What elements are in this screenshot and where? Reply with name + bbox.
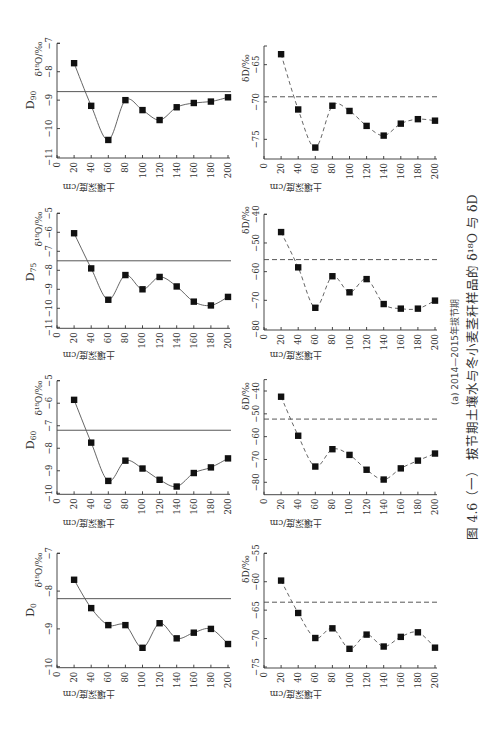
data-point-square bbox=[88, 605, 94, 611]
data-point-square bbox=[346, 289, 352, 295]
value-tick-label: −70 bbox=[251, 450, 261, 468]
chart-d90-dD: −75−70−65020406080100120140160180200δD/‰… bbox=[241, 46, 440, 193]
depth-tick-label: 140 bbox=[379, 334, 389, 350]
figure-canvas: −11−10−9−8−7020406080100120140160180200δ… bbox=[0, 0, 498, 732]
treatment-subscript: 0 bbox=[28, 603, 37, 608]
soil-water-curve bbox=[74, 580, 228, 648]
figure: −11−10−9−8−7020406080100120140160180200δ… bbox=[0, 0, 498, 732]
depth-tick-label: 140 bbox=[172, 672, 182, 688]
depth-tick-label: 40 bbox=[86, 332, 96, 343]
depth-tick-label: 20 bbox=[276, 672, 286, 683]
depth-tick-label: 20 bbox=[69, 162, 79, 173]
depth-tick-label: 20 bbox=[276, 499, 286, 510]
treatment-subscript: 75 bbox=[28, 263, 37, 273]
depth-tick-label: 200 bbox=[430, 334, 440, 350]
value-tick-label: −5 bbox=[44, 207, 54, 220]
depth-tick-label: 100 bbox=[345, 163, 355, 179]
chart-d60-dD: −80−70−60−50−400204060801001201401601802… bbox=[241, 380, 440, 529]
value-tick-label: −70 bbox=[251, 93, 261, 111]
value-tick-label: −40 bbox=[251, 382, 261, 400]
value-tick-label: −9 bbox=[44, 623, 54, 636]
treatment-label: D90 bbox=[24, 91, 38, 110]
depth-tick-label: 100 bbox=[138, 498, 148, 514]
depth-axis-title: 土壤深度/cm bbox=[269, 350, 322, 361]
depth-tick-label: 40 bbox=[293, 163, 303, 174]
data-point-square bbox=[432, 450, 438, 456]
depth-tick-label: 180 bbox=[413, 334, 423, 350]
data-point-square bbox=[225, 294, 231, 300]
data-point-square bbox=[191, 298, 197, 304]
data-point-square bbox=[295, 610, 301, 616]
depth-tick-label: 120 bbox=[362, 163, 372, 179]
depth-tick-label: 120 bbox=[362, 499, 372, 515]
depth-tick-label: 160 bbox=[189, 672, 199, 688]
data-point-square bbox=[191, 470, 197, 476]
value-tick-label: −7 bbox=[44, 419, 54, 432]
value-axis-title: δ¹⁸O/‰ bbox=[34, 552, 44, 587]
depth-tick-label: 160 bbox=[189, 332, 199, 348]
depth-tick-label: 20 bbox=[69, 672, 79, 683]
data-point-square bbox=[363, 276, 369, 282]
data-point-square bbox=[312, 144, 318, 150]
data-point-square bbox=[415, 305, 421, 311]
data-point-square bbox=[122, 272, 128, 278]
value-tick-label: −7 bbox=[44, 245, 54, 258]
treatment-label: D60 bbox=[24, 431, 38, 450]
depth-tick-label: 60 bbox=[310, 672, 320, 683]
data-point-square bbox=[71, 577, 77, 583]
depth-tick-label: 200 bbox=[223, 498, 233, 514]
data-point-square bbox=[156, 477, 162, 483]
soil-water-curve bbox=[74, 400, 228, 487]
data-point-square bbox=[174, 104, 180, 110]
treatment-letter: D bbox=[24, 100, 37, 109]
data-point-square bbox=[139, 645, 145, 651]
data-point-square bbox=[225, 94, 231, 100]
value-tick-label: −8 bbox=[44, 585, 54, 598]
depth-tick-label: 100 bbox=[345, 334, 355, 350]
data-point-square bbox=[295, 106, 301, 112]
data-point-square bbox=[105, 478, 111, 484]
data-point-square bbox=[398, 634, 404, 640]
data-point-square bbox=[174, 483, 180, 489]
data-point-square bbox=[363, 123, 369, 129]
data-point-square bbox=[312, 635, 318, 641]
depth-tick-label: 100 bbox=[138, 332, 148, 348]
value-tick-label: −40 bbox=[251, 205, 261, 223]
depth-tick-label: 0 bbox=[52, 162, 62, 167]
depth-tick-label: 40 bbox=[293, 672, 303, 683]
depth-tick-label: 180 bbox=[206, 162, 216, 178]
value-tick-label: −5 bbox=[44, 374, 54, 387]
soil-water-curve bbox=[74, 233, 228, 305]
depth-tick-label: 140 bbox=[172, 498, 182, 514]
depth-tick-label: 0 bbox=[52, 332, 62, 337]
data-point-square bbox=[71, 60, 77, 66]
depth-tick-label: 40 bbox=[293, 334, 303, 345]
depth-tick-label: 20 bbox=[69, 332, 79, 343]
data-point-square bbox=[278, 577, 284, 583]
depth-tick-label: 120 bbox=[362, 334, 372, 350]
depth-tick-label: 120 bbox=[155, 672, 165, 688]
depth-tick-label: 120 bbox=[155, 332, 165, 348]
depth-tick-label: 100 bbox=[345, 499, 355, 515]
depth-tick-label: 80 bbox=[327, 672, 337, 683]
soil-water-curve bbox=[281, 232, 435, 309]
data-point-square bbox=[225, 641, 231, 647]
data-point-square bbox=[381, 643, 387, 649]
depth-tick-label: 120 bbox=[155, 498, 165, 514]
value-axis-title: δ¹⁸O/‰ bbox=[34, 380, 44, 415]
figure-caption: 图 4.6（一） 拔节期土壤水与冬小麦茎秆样品的 δ¹⁸O 与 δD bbox=[465, 194, 480, 539]
data-point-square bbox=[295, 433, 301, 439]
depth-tick-label: 0 bbox=[259, 163, 269, 168]
depth-axis-title: 土壤深度/cm bbox=[269, 182, 322, 193]
value-tick-label: −50 bbox=[251, 405, 261, 423]
data-point-square bbox=[432, 644, 438, 650]
data-point-square bbox=[432, 297, 438, 303]
treatment-letter: D bbox=[24, 440, 37, 449]
depth-tick-label: 80 bbox=[120, 498, 130, 509]
depth-tick-label: 100 bbox=[138, 672, 148, 688]
depth-axis-title: 土壤深度/cm bbox=[269, 518, 322, 529]
data-point-square bbox=[329, 625, 335, 631]
chart-d0-dD: −75−70−65−60−550204060801001201401601802… bbox=[241, 544, 440, 700]
depth-tick-label: 200 bbox=[223, 332, 233, 348]
value-tick-label: −7 bbox=[44, 37, 54, 50]
